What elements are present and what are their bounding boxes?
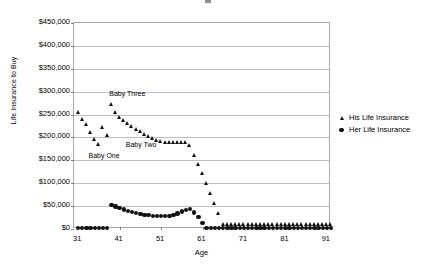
y-axis-tickmark xyxy=(71,137,74,138)
data-point xyxy=(100,125,104,129)
gridline xyxy=(74,183,329,184)
plot-area: Baby ThreeBaby TwoBaby One xyxy=(73,22,330,228)
chart-container: Life Insurance to Buy $450,000$400,000$3… xyxy=(0,0,436,274)
data-point xyxy=(113,110,117,114)
x-axis-tick-label: 61 xyxy=(190,234,214,243)
y-axis-tick-label: $400,000 xyxy=(24,41,70,49)
gridline xyxy=(74,46,329,47)
y-axis-tick-label: $250,000 xyxy=(24,110,70,118)
x-axis-tick-label: 51 xyxy=(148,234,172,243)
data-point xyxy=(84,122,88,126)
data-point xyxy=(216,211,220,215)
y-axis-tick-labels: $450,000$400,000$350,000$300,000$250,000… xyxy=(18,0,70,240)
x-axis-tick-label: 71 xyxy=(231,234,255,243)
data-point xyxy=(105,133,109,137)
data-point xyxy=(105,226,109,230)
data-point xyxy=(196,162,200,166)
chart-annotation: Baby One xyxy=(89,152,120,159)
legend-label-her: Her Life Insurance xyxy=(349,124,410,136)
x-axis-tick-label: 91 xyxy=(314,234,338,243)
x-axis-tick-label: 31 xyxy=(65,234,89,243)
y-axis-tickmark xyxy=(71,183,74,184)
legend-label-his: His Life Insurance xyxy=(349,112,409,124)
y-axis-tick-label: $200,000 xyxy=(24,132,70,140)
data-point xyxy=(88,130,92,134)
data-point xyxy=(192,210,196,214)
data-point xyxy=(96,142,100,146)
y-axis-tick-label: $150,000 xyxy=(24,155,70,163)
y-axis-tickmark xyxy=(71,23,74,24)
y-axis-tickmark xyxy=(71,92,74,93)
y-axis-tick-label: $0 xyxy=(24,224,70,232)
x-axis-tick-label: 41 xyxy=(107,234,131,243)
triangle-marker-icon xyxy=(338,116,345,120)
y-axis-tick-label: $450,000 xyxy=(24,18,70,26)
data-point xyxy=(76,110,80,114)
gridline xyxy=(74,69,329,70)
x-axis-tickmark xyxy=(161,227,162,230)
circle-marker-icon xyxy=(338,128,345,132)
y-axis-tick-label: $300,000 xyxy=(24,87,70,95)
data-point xyxy=(80,117,84,121)
y-axis-tick-label: $350,000 xyxy=(24,64,70,72)
chart-legend: His Life Insurance Her Life Insurance xyxy=(338,112,410,136)
data-point xyxy=(329,226,333,230)
gridline xyxy=(74,115,329,116)
data-point xyxy=(208,191,212,195)
data-point xyxy=(200,171,204,175)
legend-item-her[interactable]: Her Life Insurance xyxy=(338,124,410,136)
y-axis-tickmark xyxy=(71,46,74,47)
x-axis-tickmark xyxy=(120,227,121,230)
y-axis-title: Life Insurance to Buy xyxy=(10,31,17,151)
x-axis-title: Age xyxy=(73,248,330,257)
y-axis-tickmark xyxy=(71,69,74,70)
data-point xyxy=(200,221,204,225)
data-point xyxy=(92,137,96,141)
x-axis-tick-label: 81 xyxy=(272,234,296,243)
x-axis-tickmark xyxy=(203,227,204,230)
chart-annotation: Baby Two xyxy=(126,141,157,148)
y-axis-tick-label: $100,000 xyxy=(24,178,70,186)
y-axis-tick-label: $50,000 xyxy=(24,201,70,209)
gridline xyxy=(74,137,329,138)
y-axis-tickmark xyxy=(71,115,74,116)
y-axis-tickmark xyxy=(71,206,74,207)
data-point xyxy=(192,153,196,157)
gridline xyxy=(74,160,329,161)
data-point xyxy=(109,102,113,106)
y-axis-tickmark xyxy=(71,160,74,161)
y-axis-tickmark xyxy=(71,229,74,230)
data-point xyxy=(204,181,208,185)
legend-item-his[interactable]: His Life Insurance xyxy=(338,112,410,124)
data-point xyxy=(212,201,216,205)
chart-annotation: Baby Three xyxy=(109,90,145,97)
data-point xyxy=(196,215,200,219)
title-artifact xyxy=(205,0,211,3)
data-point xyxy=(187,143,191,147)
